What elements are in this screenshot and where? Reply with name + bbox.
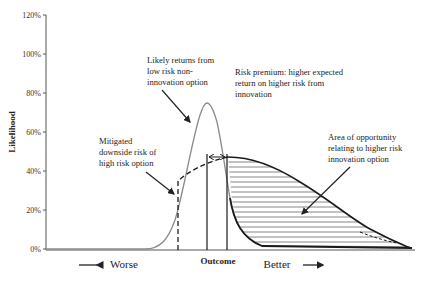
svg-text:relating to higher risk: relating to higher risk	[328, 143, 403, 153]
y-tick-label: 20%	[26, 206, 41, 215]
svg-text:Area of opportunity: Area of opportunity	[328, 132, 397, 142]
svg-text:high risk option: high risk option	[99, 158, 154, 168]
y-tick-label: 0%	[30, 245, 41, 254]
worse-label: Worse	[110, 258, 138, 270]
svg-text:Mitigated: Mitigated	[99, 136, 133, 146]
y-axis-title: Likelihood	[7, 111, 17, 153]
svg-text:Likely returns from: Likely returns from	[147, 55, 215, 65]
annotation-likely-returns: Likely returns from low risk non- innova…	[147, 55, 215, 122]
svg-text:downside risk of: downside risk of	[99, 147, 156, 157]
svg-text:innovation option: innovation option	[328, 154, 390, 164]
risk-return-chart: 120% 100% 80% 60% 40% 20% 0% Likelihood …	[0, 0, 423, 284]
better-label: Better	[264, 258, 291, 270]
svg-text:innovation: innovation	[235, 89, 272, 99]
risk-premium-bracket	[207, 154, 227, 250]
high-risk-solid-curve	[228, 157, 410, 248]
y-tick-label: 100%	[22, 50, 41, 59]
x-axis-title: Outcome	[201, 256, 236, 266]
opportunity-hatch	[220, 162, 420, 242]
annotation-risk-premium: Risk premium: higher expected return on …	[235, 67, 344, 99]
annotation-mitigated: Mitigated downside risk of high risk opt…	[99, 136, 174, 194]
y-axis: 120% 100% 80% 60% 40% 20% 0% Likelihood	[7, 11, 46, 254]
svg-text:Risk premium: higher expected: Risk premium: higher expected	[235, 67, 344, 77]
svg-text:innovation option: innovation option	[147, 77, 209, 87]
y-tick-label: 60%	[26, 128, 41, 137]
svg-text:low risk non-: low risk non-	[147, 66, 193, 76]
y-tick-label: 120%	[22, 11, 41, 20]
svg-text:return on higher risk from: return on higher risk from	[235, 78, 325, 88]
y-tick-label: 80%	[26, 89, 41, 98]
y-tick-label: 40%	[26, 167, 41, 176]
high-risk-dashed-curve	[178, 157, 228, 250]
x-axis: Outcome Worse Better	[46, 250, 415, 270]
